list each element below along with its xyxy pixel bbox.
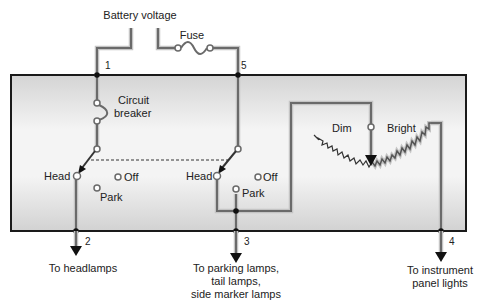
- headlamp-switch-diagram: Battery voltage Fuse Circuit breaker Hea…: [0, 0, 479, 307]
- to-headlamps-label: To headlamps: [49, 262, 118, 274]
- off-left-label: Off: [124, 171, 139, 183]
- to-parking-lamps-label-1: To parking lamps,: [193, 262, 279, 274]
- to-instrument-label-1: To instrument: [407, 264, 473, 276]
- to-parking-lamps-label-2: tail lamps,: [211, 275, 261, 287]
- to-parking-lamps-label-3: side marker lamps: [191, 288, 281, 300]
- fuse-to-terminal-5: [213, 48, 238, 75]
- head-left-label: Head: [44, 170, 70, 182]
- terminal-3: 3: [244, 236, 250, 247]
- park-left-label: Park: [100, 191, 123, 203]
- bright-label: Bright: [387, 122, 416, 134]
- head-right-label: Head: [186, 170, 212, 182]
- terminal-2: 2: [85, 236, 91, 247]
- off-right-label: Off: [263, 171, 278, 183]
- terminal-1: 1: [105, 60, 111, 71]
- circuit-breaker-label-2: breaker: [114, 107, 152, 119]
- terminal-4: 4: [449, 236, 455, 247]
- to-instrument-label-2: panel lights: [412, 277, 468, 289]
- battery-wire-left: [97, 28, 131, 75]
- output-arrows: [70, 231, 447, 263]
- park-right-label: Park: [242, 187, 265, 199]
- battery-wire-right: [158, 28, 175, 48]
- battery-voltage-label: Battery voltage: [103, 9, 176, 21]
- dim-label: Dim: [332, 122, 352, 134]
- circuit-breaker-label-1: Circuit: [118, 94, 149, 106]
- terminal-5: 5: [241, 60, 247, 71]
- fuse-label: Fuse: [180, 29, 204, 41]
- fuse-symbol: [175, 42, 213, 54]
